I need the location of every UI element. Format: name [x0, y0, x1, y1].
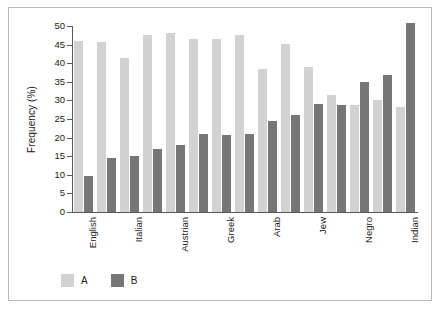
legend-swatch — [61, 274, 74, 287]
bar-group — [325, 26, 348, 212]
bar-series-a — [396, 107, 405, 212]
chart-legend: AB — [61, 274, 151, 287]
y-axis-tick-label: 35 — [54, 77, 65, 87]
x-axis-line — [72, 212, 418, 213]
legend-item: A — [61, 274, 88, 287]
y-axis-tick-label: 10 — [54, 170, 65, 180]
x-axis-tick-label: English — [88, 217, 98, 248]
bar-series-a — [327, 95, 336, 212]
bar-series-a — [212, 39, 221, 212]
x-axis-tick-label: Greek — [226, 217, 236, 243]
bar-series-b — [199, 134, 208, 212]
bars-layer — [72, 26, 417, 212]
bar-group — [164, 26, 187, 212]
x-axis-tick-label: Indian — [410, 217, 420, 243]
y-axis-tick-label: 40 — [54, 58, 65, 68]
bar-series-a — [350, 105, 359, 212]
y-axis-tick-label: 0 — [60, 207, 65, 217]
bar-series-b — [245, 134, 254, 212]
bar-series-b — [176, 145, 185, 212]
legend-label: B — [131, 276, 138, 286]
bar-series-b — [268, 121, 277, 213]
figure-container: Frequency (%) 05101520253035404550 Engli… — [0, 0, 440, 309]
bar-series-b — [291, 115, 300, 212]
bar-series-a — [143, 35, 152, 212]
y-axis-tick-label: 15 — [54, 151, 65, 161]
bar-series-b — [360, 82, 369, 212]
bar-series-a — [258, 69, 267, 212]
bar-series-a — [235, 35, 244, 212]
bar-group — [279, 26, 302, 212]
bar-series-b — [130, 156, 139, 212]
bar-group — [141, 26, 164, 212]
bar-group — [394, 26, 417, 212]
y-axis-tick-label: 25 — [54, 114, 65, 124]
bar-series-b — [153, 149, 162, 212]
y-axis-tick-label: 5 — [60, 189, 65, 199]
x-axis-tick-label: Italian — [134, 217, 144, 242]
bar-series-b — [383, 75, 392, 212]
bar-series-b — [406, 23, 415, 212]
x-axis-tick-label: Austrian — [180, 217, 190, 252]
bar-group — [95, 26, 118, 212]
bar-group — [256, 26, 279, 212]
bar-series-a — [97, 42, 106, 212]
legend-item: B — [111, 274, 138, 287]
bar-group — [210, 26, 233, 212]
bar-group — [371, 26, 394, 212]
y-axis-tick-label: 30 — [54, 96, 65, 106]
legend-label: A — [81, 276, 88, 286]
legend-swatch — [111, 274, 124, 287]
y-axis-title: Frequency (%) — [24, 26, 38, 212]
y-axis-tick-label: 50 — [54, 21, 65, 31]
bar-series-a — [304, 67, 313, 212]
bar-series-a — [281, 44, 290, 212]
y-axis-tick-label: 45 — [54, 40, 65, 50]
bar-series-b — [222, 135, 231, 212]
bar-series-a — [166, 33, 175, 212]
bar-series-a — [74, 41, 83, 212]
bar-series-b — [314, 104, 323, 212]
plot-area: 05101520253035404550 — [72, 26, 417, 212]
bar-series-b — [84, 176, 93, 212]
x-axis-tick-label: Arab — [272, 217, 282, 237]
bar-series-a — [120, 58, 129, 212]
bar-series-b — [107, 158, 116, 212]
y-axis-title-label: Frequency (%) — [26, 86, 37, 153]
bar-series-b — [337, 105, 346, 212]
x-axis-tick-label: Negro — [364, 217, 374, 243]
bar-group — [302, 26, 325, 212]
y-axis-tick-label: 20 — [54, 133, 65, 143]
bar-series-a — [189, 39, 198, 212]
bar-series-a — [373, 100, 382, 212]
bar-group — [187, 26, 210, 212]
bar-group — [233, 26, 256, 212]
x-axis-tick-label: Jew — [318, 217, 328, 234]
bar-group — [348, 26, 371, 212]
bar-group — [118, 26, 141, 212]
y-axis-tick-mark — [67, 212, 72, 213]
bar-group — [72, 26, 95, 212]
